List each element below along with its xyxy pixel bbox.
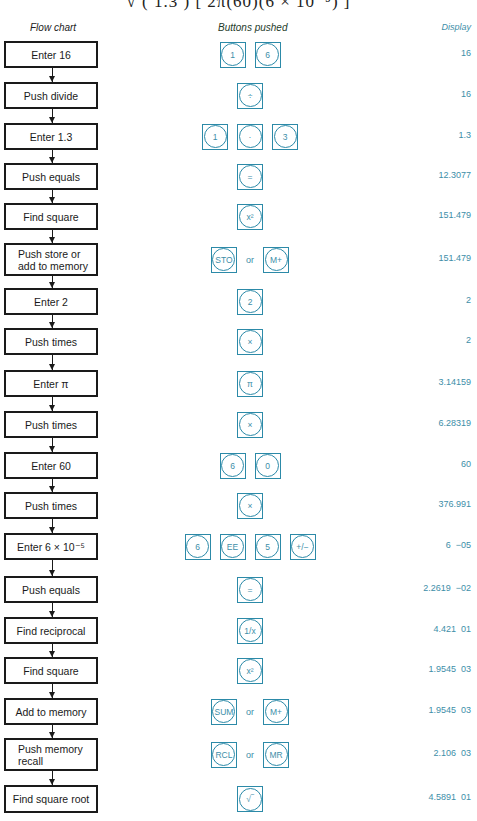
down-arrow-icon xyxy=(52,519,53,533)
buttons-pushed-group: × xyxy=(150,329,350,355)
calculator-key[interactable]: = xyxy=(237,164,263,190)
buttons-pushed-group: 6EE5+/− xyxy=(150,534,350,560)
calculator-key[interactable]: EE xyxy=(220,534,246,560)
calculator-key[interactable]: x² xyxy=(237,204,263,230)
display-value: 1.9545 03 xyxy=(428,664,471,674)
key-label: +/− xyxy=(291,535,314,558)
display-value: 16 xyxy=(461,48,471,58)
flow-step-box: Push times xyxy=(4,492,98,519)
key-label: × xyxy=(239,413,262,436)
display-value: 2.106 03 xyxy=(433,748,471,758)
calculator-key[interactable]: RCL xyxy=(211,742,237,768)
calculator-key[interactable]: STO xyxy=(211,247,237,273)
down-arrow-icon xyxy=(52,644,53,657)
key-label: ÷ xyxy=(239,84,262,107)
buttons-pushed-group: = xyxy=(150,164,350,190)
calculator-key[interactable]: 0 xyxy=(255,453,281,479)
key-label: M+ xyxy=(265,700,288,723)
key-label: 1 xyxy=(221,43,244,66)
flow-step-box: Enter π xyxy=(4,370,98,397)
or-label: or xyxy=(246,707,254,717)
display-value: 12.3077 xyxy=(438,170,471,180)
key-label: π xyxy=(239,372,262,395)
calculator-key[interactable]: 1 xyxy=(202,124,228,150)
flow-step-box: Add to memory xyxy=(4,698,98,725)
display-value: 16 xyxy=(461,89,471,99)
flow-step-box: Enter 2 xyxy=(4,288,98,315)
key-label: 1/x xyxy=(239,619,262,642)
calculator-key[interactable]: × xyxy=(237,412,263,438)
flow-step-box: Enter 6 × 10⁻⁵ xyxy=(4,533,98,560)
buttons-pushed-group: π xyxy=(150,371,350,397)
buttons-pushed-group: 2 xyxy=(150,289,350,315)
down-arrow-icon xyxy=(52,397,53,411)
buttons-pushed-group: SUMorM+ xyxy=(150,699,350,725)
calculator-key[interactable]: 2 xyxy=(237,289,263,315)
display-value: 151.479 xyxy=(438,253,471,263)
buttons-pushed-group: STOorM+ xyxy=(150,247,350,273)
buttons-pushed-group: × xyxy=(150,493,350,519)
calculator-key[interactable]: × xyxy=(237,493,263,519)
flow-step-box: Find square root xyxy=(4,785,98,813)
key-label: STO xyxy=(212,248,235,271)
key-label: × xyxy=(239,494,262,517)
key-label: = xyxy=(239,165,262,188)
key-label: 6 xyxy=(186,535,209,558)
calculator-key[interactable]: 6 xyxy=(185,534,211,560)
display-value: 2.2619 −02 xyxy=(423,583,471,593)
display-value: 4.421 01 xyxy=(433,624,471,634)
key-label: 6 xyxy=(221,454,244,477)
down-arrow-icon xyxy=(52,150,53,163)
buttons-pushed-header: Buttons pushed xyxy=(218,22,288,33)
buttons-pushed-group: RCLorMR xyxy=(150,742,350,768)
key-label: x² xyxy=(239,205,262,228)
buttons-pushed-group: × xyxy=(150,412,350,438)
flow-step-box: Find square xyxy=(4,657,98,684)
display-value: 1.3 xyxy=(458,130,471,140)
key-label: 6 xyxy=(256,43,279,66)
down-arrow-icon xyxy=(52,276,53,288)
calculator-key[interactable]: π xyxy=(237,371,263,397)
buttons-pushed-group: 16 xyxy=(150,42,350,68)
calculator-key[interactable]: · xyxy=(237,124,263,150)
key-label: 3 xyxy=(274,125,297,148)
calculator-key[interactable]: MR xyxy=(263,742,289,768)
key-label: MR xyxy=(265,743,288,766)
display-value: 6.28319 xyxy=(438,418,471,428)
calculator-key[interactable]: 1 xyxy=(220,42,246,68)
down-arrow-icon xyxy=(52,109,53,123)
down-arrow-icon xyxy=(52,355,53,370)
key-label: RCL xyxy=(212,743,235,766)
calculator-key[interactable]: M+ xyxy=(263,247,289,273)
calculator-key[interactable]: x² xyxy=(237,658,263,684)
calculator-key[interactable]: SUM xyxy=(211,699,237,725)
calculator-key[interactable]: √‾ xyxy=(237,786,263,812)
calculator-key[interactable]: 5 xyxy=(255,534,281,560)
down-arrow-icon xyxy=(52,560,53,576)
display-value: 6 −05 xyxy=(446,540,471,550)
calculator-key[interactable]: 1/x xyxy=(237,618,263,644)
calculator-key[interactable]: 6 xyxy=(255,42,281,68)
calculator-key[interactable]: = xyxy=(237,577,263,603)
down-arrow-icon xyxy=(52,190,53,203)
display-header: Display xyxy=(441,22,471,32)
display-value: 60 xyxy=(461,459,471,469)
calculator-key[interactable]: 6 xyxy=(220,453,246,479)
calculator-key[interactable]: × xyxy=(237,329,263,355)
down-arrow-icon xyxy=(52,315,53,328)
calculator-key[interactable]: ÷ xyxy=(237,83,263,109)
calculator-key[interactable]: +/− xyxy=(290,534,316,560)
display-value: 3.14159 xyxy=(438,377,471,387)
calculator-key[interactable]: 3 xyxy=(272,124,298,150)
display-value: 151.479 xyxy=(438,210,471,220)
buttons-pushed-group: 60 xyxy=(150,453,350,479)
buttons-pushed-group: ÷ xyxy=(150,83,350,109)
down-arrow-icon xyxy=(52,479,53,492)
calculator-key[interactable]: M+ xyxy=(263,699,289,725)
or-label: or xyxy=(246,750,254,760)
buttons-pushed-group: x² xyxy=(150,204,350,230)
buttons-pushed-group: x² xyxy=(150,658,350,684)
key-label: 5 xyxy=(256,535,279,558)
buttons-pushed-group: √‾ xyxy=(150,786,350,812)
key-label: √‾ xyxy=(239,788,262,811)
